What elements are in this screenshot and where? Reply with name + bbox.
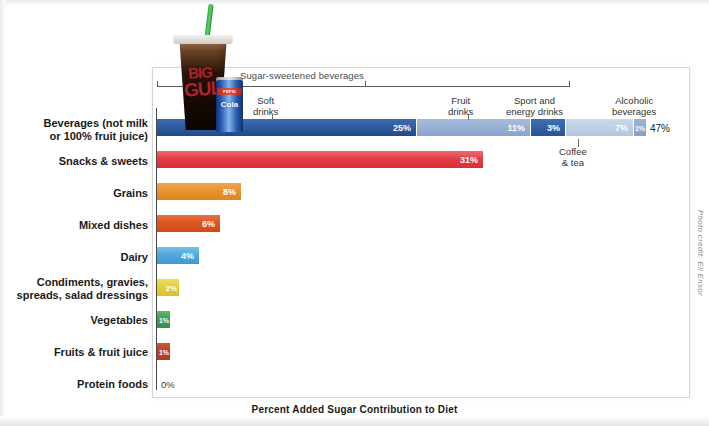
callout-fruit-drinks-line2: drinks (448, 106, 473, 117)
can-brand-text: Cola (216, 100, 243, 109)
bar-mixed-dishes-value: 6% (202, 219, 215, 229)
segment-alcoholic-beverages: 1% (634, 119, 646, 136)
segment-sport-energy-value: 3% (547, 123, 560, 133)
category-label-snacks: Snacks & sweets (59, 155, 148, 168)
beverage-photo: BIG GULP PEPSI Cola (160, 2, 270, 132)
bar-grains-value: 8% (223, 187, 236, 197)
callout-fruit-drinks: Fruit drinks (448, 95, 473, 117)
x-axis-title: Percent Added Sugar Contribution to Diet (0, 404, 709, 415)
callout-fruit-drinks-line1: Fruit (448, 95, 473, 106)
scan-edge-top (0, 0, 709, 6)
bar-fruits-value: 1% (159, 348, 169, 355)
category-label-beverages-line2: or 100% fruit juice) (43, 130, 148, 143)
callout-coffee-line1: Coffee (559, 146, 587, 157)
scan-edge-bottom (0, 416, 709, 426)
category-label-fruits: Fruits & fruit juice (54, 346, 148, 359)
bar-vegetables-value: 1% (159, 316, 169, 323)
segment-coffee-tea: 7% (566, 119, 633, 136)
segment-sport-energy-drinks: 3% (531, 119, 565, 136)
segment-coffee-tea-value: 7% (615, 123, 628, 133)
category-label-condiments-line1: Condiments, gravies, (17, 276, 148, 289)
category-label-grains: Grains (113, 187, 148, 200)
bar-snacks-sweets-value: 31% (460, 155, 478, 165)
bar-protein-foods-value: 0% (161, 378, 175, 389)
segment-soft-drinks-value: 25% (393, 123, 411, 133)
category-label-condiments: Condiments, gravies, spreads, salad dres… (17, 276, 148, 302)
callout-coffee-line2: & tea (559, 157, 587, 168)
bar-condiments-value: 2% (165, 283, 177, 292)
callout-coffee-tea: Coffee & tea (559, 146, 587, 168)
value-axis (156, 108, 157, 390)
chart-page: BIG GULP PEPSI Cola Sugar-sweetened beve… (0, 0, 709, 426)
can-brand-band-text: PEPSI (218, 89, 241, 94)
category-label-beverages: Beverages (not milk or 100% fruit juice) (43, 117, 148, 143)
segment-fruit-drinks-value: 11% (507, 123, 525, 133)
category-label-condiments-line2: spreads, salad dressings (17, 289, 148, 302)
bar-dairy-value: 4% (181, 251, 194, 261)
callout-alcoholic-beverages: Alcoholic beverages (612, 95, 656, 117)
photo-credit: Photo credit: Eli Ensor (696, 210, 705, 296)
category-label-beverages-line1: Beverages (not milk (43, 117, 148, 130)
bar-dairy: 4% (157, 247, 199, 264)
callout-alcoholic-line1: Alcoholic (612, 95, 656, 106)
bar-snacks-sweets: 31% (157, 151, 483, 168)
cup-lid (173, 35, 233, 44)
callout-sport-line2: energy drinks (506, 106, 563, 117)
callout-sport-line1: Sport and (506, 95, 563, 106)
category-label-vegetables: Vegetables (91, 314, 148, 327)
category-label-dairy: Dairy (120, 251, 148, 264)
bar-fruits: 1% (157, 343, 170, 360)
segment-fruit-drinks: 11% (417, 119, 530, 136)
segment-alcoholic-value: 1% (635, 124, 645, 131)
bar-vegetables: 1% (157, 311, 170, 328)
bar-mixed-dishes: 6% (157, 215, 220, 232)
callout-soft-drinks-leader (272, 114, 273, 120)
scan-edge-left (0, 0, 6, 426)
bar-condiments: 2% (157, 279, 179, 296)
callout-fruit-drinks-leader (468, 114, 469, 120)
callout-sport-energy-drinks: Sport and energy drinks (506, 95, 563, 117)
bar-beverages-total: 47% (650, 122, 670, 133)
category-label-protein: Protein foods (77, 378, 148, 391)
callout-alcoholic-line2: beverages (612, 106, 656, 117)
category-label-mixed-dishes: Mixed dishes (79, 219, 148, 232)
bar-grains: 8% (157, 183, 241, 200)
sugar-sweetened-bracket-tick (365, 81, 366, 87)
